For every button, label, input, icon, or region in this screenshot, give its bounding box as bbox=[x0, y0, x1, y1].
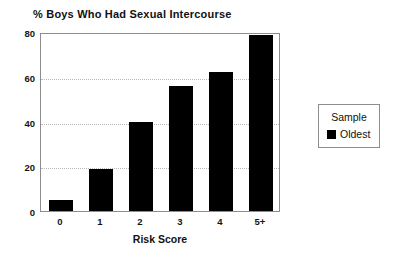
legend: Sample Oldest bbox=[318, 104, 380, 148]
y-tick-label: 40 bbox=[24, 117, 35, 128]
x-axis-title: Risk Score bbox=[40, 233, 280, 245]
legend-swatch-icon bbox=[327, 130, 336, 139]
legend-entries: Oldest bbox=[327, 128, 371, 140]
bars-layer bbox=[41, 34, 279, 211]
x-tick-label: 3 bbox=[177, 216, 182, 227]
x-tick-label: 1 bbox=[97, 216, 102, 227]
legend-entry: Oldest bbox=[327, 128, 371, 140]
plot-area bbox=[40, 33, 280, 212]
legend-label: Oldest bbox=[340, 128, 370, 140]
y-tick-label: 80 bbox=[24, 28, 35, 39]
bar bbox=[249, 35, 274, 211]
x-tick-label: 5+ bbox=[255, 216, 266, 227]
y-tick-label: 60 bbox=[24, 72, 35, 83]
x-tick-label: 4 bbox=[217, 216, 222, 227]
x-tick-label: 0 bbox=[57, 216, 62, 227]
legend-title: Sample bbox=[327, 111, 371, 123]
bar bbox=[89, 169, 114, 212]
chart-title: % Boys Who Had Sexual Intercourse bbox=[33, 8, 232, 20]
bar bbox=[209, 72, 234, 211]
bar bbox=[169, 86, 194, 211]
x-tick-label: 2 bbox=[137, 216, 142, 227]
bar-chart-figure: % Boys Who Had Sexual Intercourse 020406… bbox=[0, 0, 399, 258]
y-tick-label: 20 bbox=[24, 162, 35, 173]
bar bbox=[129, 122, 154, 212]
bar bbox=[49, 200, 74, 211]
y-tick-label: 0 bbox=[30, 207, 35, 218]
